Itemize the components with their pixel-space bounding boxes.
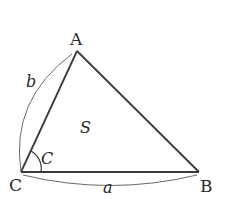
- triangle-diagram: A C B b a S C: [0, 0, 226, 199]
- side-ab: [77, 51, 199, 172]
- angle-c-arc: [31, 151, 41, 172]
- vertex-a-label: A: [69, 29, 83, 49]
- area-s-label: S: [80, 118, 91, 137]
- triangle-svg: A C B b a S C: [0, 0, 226, 199]
- side-b-label: b: [26, 72, 36, 91]
- side-a-label: a: [103, 178, 113, 197]
- angle-c-label: C: [41, 149, 53, 168]
- vertex-c-label: C: [9, 175, 22, 195]
- vertex-b-label: B: [200, 176, 213, 196]
